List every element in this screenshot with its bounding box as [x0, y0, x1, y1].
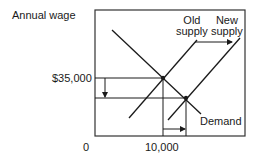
old-supply-line2: supply	[176, 26, 208, 37]
old-equilibrium-point	[161, 76, 165, 80]
old-supply-label: Old supply	[176, 15, 208, 37]
y-axis-label: Annual wage	[12, 9, 76, 21]
new-equilibrium-point	[184, 96, 188, 100]
y-tick-label: $35,000	[52, 72, 92, 84]
new-supply-label: New supply	[211, 15, 243, 37]
demand-label: Demand	[200, 115, 242, 127]
new-supply-curve	[168, 38, 240, 120]
new-supply-line2: supply	[211, 26, 243, 37]
x-tick-label: 10,000	[145, 141, 179, 153]
x-origin-label: 0	[83, 141, 89, 153]
demand-curve	[112, 30, 201, 114]
